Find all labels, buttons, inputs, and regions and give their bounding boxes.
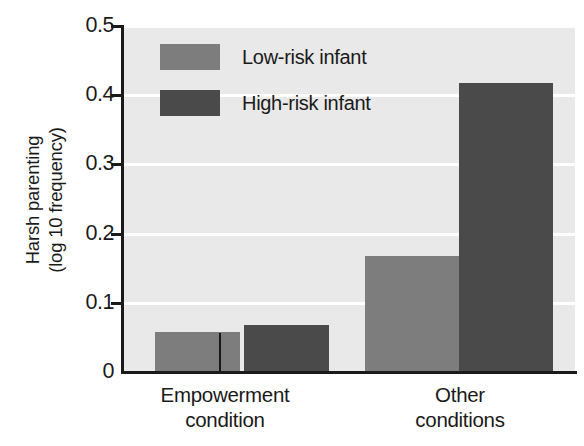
x-axis-group-separator-tick <box>219 333 221 372</box>
legend-item-high-risk: High-risk infant <box>160 86 371 120</box>
y-tick-label-0: 0 <box>52 361 114 382</box>
y-tick-label-0.5: 0.5 <box>52 15 114 36</box>
x-axis-label-other-line2: conditions <box>340 407 580 432</box>
bar-chart-figure: Harsh parenting (log 10 frequency) 0.5 0… <box>0 0 584 446</box>
bar-other-high-risk <box>459 83 553 372</box>
x-axis-label-empowerment-line2: condition <box>105 407 345 432</box>
y-tick-label-0.2: 0.2 <box>52 223 114 244</box>
x-axis-label-empowerment: Empowerment condition <box>105 382 345 432</box>
legend-item-low-risk: Low-risk infant <box>160 40 371 74</box>
bar-other-low-risk <box>365 256 459 372</box>
y-axis-line <box>121 25 124 374</box>
legend-swatch-low-risk <box>160 44 220 70</box>
legend: Low-risk infant High-risk infant <box>160 40 371 132</box>
bar-empowerment-high-risk <box>244 325 329 372</box>
y-tick-label-0.3: 0.3 <box>52 153 114 174</box>
x-axis-label-other-line1: Other <box>340 382 580 407</box>
legend-label-high-risk: High-risk infant <box>242 93 371 113</box>
plot-area: Low-risk infant High-risk infant <box>123 25 575 372</box>
x-axis-label-empowerment-line1: Empowerment <box>105 382 345 407</box>
x-axis-label-other: Other conditions <box>340 382 580 432</box>
legend-label-low-risk: Low-risk infant <box>242 47 366 67</box>
gridline-0.5 <box>123 25 575 28</box>
y-tick-label-0.4: 0.4 <box>52 84 114 105</box>
x-axis-line <box>121 371 577 374</box>
y-axis-title-line1: Harsh parenting <box>21 136 44 265</box>
bar-empowerment-low-risk <box>155 332 240 372</box>
legend-swatch-high-risk <box>160 90 220 116</box>
y-axis-title-line2: (log 10 frequency) <box>44 127 67 273</box>
y-tick-label-0.1: 0.1 <box>52 292 114 313</box>
